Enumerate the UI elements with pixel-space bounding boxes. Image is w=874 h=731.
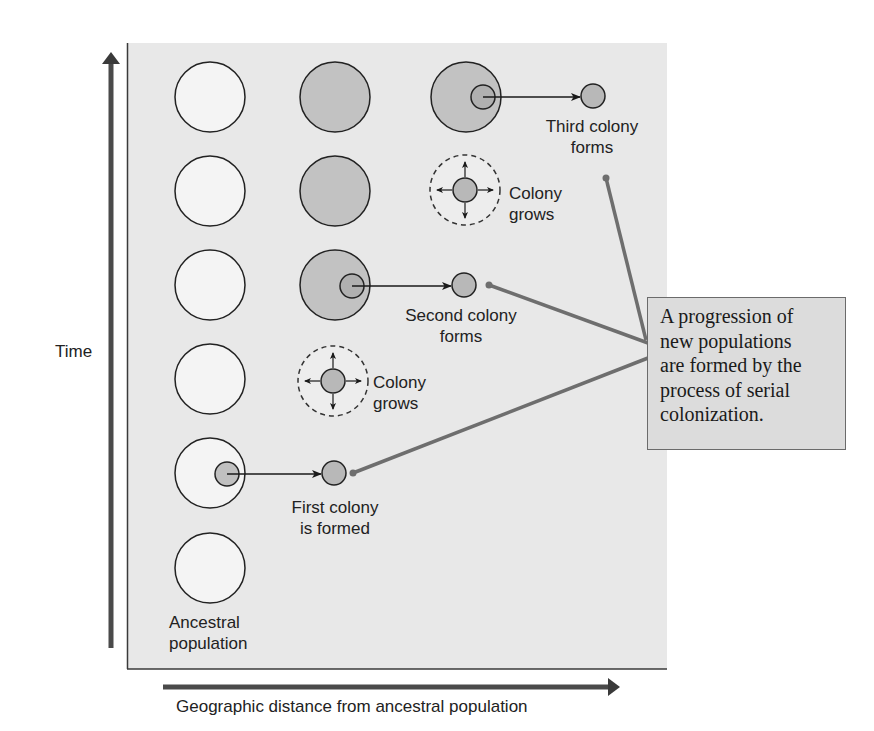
colony-grows-label-2: Colony grows <box>509 183 562 225</box>
distance-axis-label: Geographic distance from ancestral popul… <box>176 696 528 717</box>
callout-line: A progression of <box>660 304 837 329</box>
first-colony-label: First colony is formed <box>285 497 385 539</box>
distance-axis-arrow-icon <box>163 678 620 696</box>
population-circle <box>175 156 245 226</box>
population-circle <box>175 344 245 414</box>
second-colony-label: Second colony forms <box>401 305 521 347</box>
callout-line: colonization. <box>660 402 837 427</box>
colony-grows-1 <box>298 346 368 416</box>
population-circle <box>300 62 370 132</box>
serial-colonization-callout: A progression of new populations are for… <box>647 297 846 450</box>
colony-grows-label-1: Colony grows <box>373 372 426 414</box>
population-circle <box>175 62 245 132</box>
third-colony-label: Third colony forms <box>536 116 648 158</box>
callout-line: process of serial <box>660 378 837 403</box>
time-axis-label: Time <box>55 341 92 362</box>
second-colony-circle <box>452 273 476 297</box>
third-colony-circle <box>581 84 605 108</box>
population-circle <box>175 533 245 603</box>
ancestral-population-label: Ancestral population <box>169 612 247 654</box>
colony-grows-2 <box>430 155 500 225</box>
population-circle <box>300 156 370 226</box>
callout-line: new populations <box>660 329 837 354</box>
first-colony-circle <box>322 461 346 485</box>
population-circle <box>175 250 245 320</box>
callout-line: are formed by the <box>660 353 837 378</box>
time-axis-arrow-icon <box>102 52 120 648</box>
